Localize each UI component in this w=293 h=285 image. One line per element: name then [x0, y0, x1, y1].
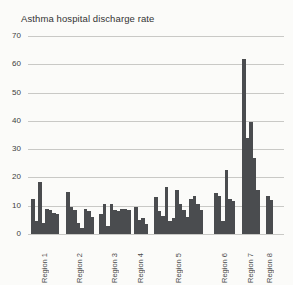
x-axis-label-region-3: Region 3 [110, 240, 120, 283]
x-axis-label-region-8: Region 8 [265, 240, 275, 283]
bar [145, 224, 149, 234]
x-axis-label-region-6: Region 6 [220, 240, 230, 283]
bar-group-region-3 [99, 204, 131, 234]
gridline-0 [28, 234, 284, 235]
bar [91, 217, 95, 234]
bar [232, 201, 236, 234]
bar-group-region-8 [266, 196, 273, 234]
chart-title: Asthma hospital discharge rate [21, 13, 154, 24]
y-axis-tick-label: 60 [0, 59, 21, 68]
bar-group-region-2 [66, 192, 94, 234]
asthma-discharge-chart: Asthma hospital discharge rate 010203040… [0, 0, 293, 285]
bar-group-region-4 [134, 207, 148, 234]
bar [270, 200, 274, 234]
y-axis-tick-label: 30 [0, 144, 21, 153]
x-axis-label-region-7: Region 7 [246, 240, 256, 283]
x-axis-label-region-4: Region 4 [136, 240, 146, 283]
x-axis-label-region-2: Region 2 [75, 240, 85, 283]
y-axis-tick-label: 50 [0, 88, 21, 97]
y-axis-tick-label: 20 [0, 172, 21, 181]
y-axis-tick-label: 70 [0, 31, 21, 40]
gridline-70 [28, 36, 284, 37]
bar [56, 214, 60, 234]
bar-group-region-7 [242, 59, 260, 234]
bar [256, 190, 260, 234]
y-axis-tick-label: 40 [0, 116, 21, 125]
x-axis-label-region-5: Region 5 [174, 240, 184, 283]
y-axis-tick-label: 10 [0, 201, 21, 210]
x-axis-label-region-1: Region 1 [40, 240, 50, 283]
y-axis-tick-label: 0 [0, 229, 21, 238]
bar-group-region-1 [31, 182, 59, 234]
bar [200, 210, 204, 234]
bar-group-region-6 [214, 170, 235, 234]
bar [127, 210, 131, 234]
bar-group-region-5 [154, 187, 203, 234]
plot-area: 010203040506070 [0, 36, 293, 234]
